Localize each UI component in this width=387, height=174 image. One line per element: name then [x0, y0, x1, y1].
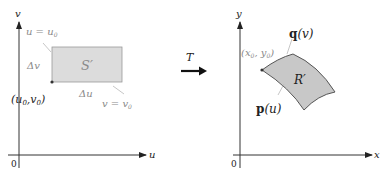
- origin-label: 0: [231, 159, 237, 169]
- u-equals-u0-label: u = u0: [26, 26, 58, 38]
- delta-v-label: Δv: [26, 60, 40, 71]
- x-axis-label: x: [374, 149, 380, 160]
- region-s-label: S′: [81, 58, 93, 73]
- left-uv-plane: v u 0 S′ u = u0 Δv Δu v = v0 (u0,v0): [8, 8, 155, 169]
- q-curve-leader: [287, 39, 292, 54]
- p-curve-leader: [278, 84, 284, 95]
- v-axis-label: v: [15, 8, 21, 19]
- u-axis-label: u: [149, 149, 155, 160]
- corner-point-label: (u0,v0): [11, 93, 45, 107]
- corner-point-label: (x0, y0): [241, 47, 274, 59]
- transform-arrow-icon: [199, 67, 207, 76]
- p-curve-label: p(u): [256, 102, 282, 116]
- u-equals-u0-leader: [43, 43, 51, 52]
- y-axis-label: y: [235, 8, 242, 19]
- q-curve-label: q(v): [289, 27, 314, 41]
- region-r-label: R′: [293, 73, 306, 87]
- v-equals-v0-label: v = v0: [102, 98, 132, 110]
- transform-t: T: [181, 51, 207, 76]
- origin-label: 0: [11, 159, 17, 169]
- delta-u-label: Δu: [78, 88, 93, 99]
- corner-point: [260, 68, 263, 71]
- right-xy-plane: y x 0 R′ q(v) (x0, y0) p(u): [231, 8, 380, 169]
- v-equals-v0-leader: [113, 86, 124, 94]
- transformation-diagram: v u 0 S′ u = u0 Δv Δu v = v0 (u0,v0) T y…: [0, 0, 387, 174]
- corner-point: [50, 80, 53, 83]
- transform-label: T: [186, 51, 195, 64]
